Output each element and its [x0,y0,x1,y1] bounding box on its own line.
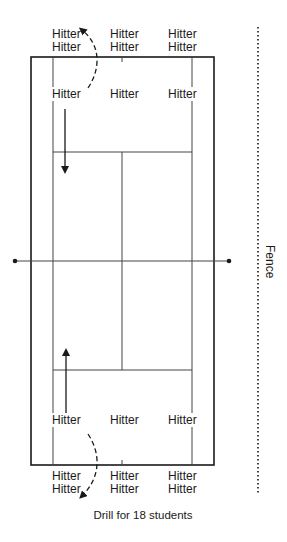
rotation-arrow-top [82,30,97,88]
hitter-top-row2-right: Hitter [168,40,197,54]
hitter-top-row1-center: Hitter [110,27,139,41]
hitter-top-row2-center: Hitter [110,40,139,54]
net-post-left [13,259,18,264]
hitter-bottom-row2-left: Hitter [52,482,81,496]
hitter-bottom-service-center: Hitter [110,413,139,427]
hitter-bottom-row1-left: Hitter [52,469,81,483]
diagram-caption: Drill for 18 students [93,509,192,521]
hitter-top-service-right: Hitter [168,87,197,101]
hitter-top-service-left: Hitter [52,87,81,101]
net-post-right [227,259,232,264]
fence-label: Fence [263,245,277,279]
hitter-top-service-center: Hitter [110,87,139,101]
hitter-bottom-service-right: Hitter [168,413,197,427]
hitter-bottom-row2-right: Hitter [168,482,197,496]
tennis-court-diagram: Fence Hitter Hitter Hitter Hitter Hitter… [0,0,287,542]
hitter-bottom-row2-center: Hitter [110,482,139,496]
hitter-bottom-row1-center: Hitter [110,469,139,483]
hitter-bottom-service-left: Hitter [52,413,81,427]
hitter-top-row1-left: Hitter [52,27,81,41]
hitter-top-row1-right: Hitter [168,27,197,41]
hitter-bottom-row1-right: Hitter [168,469,197,483]
hitter-top-row2-left: Hitter [52,40,81,54]
